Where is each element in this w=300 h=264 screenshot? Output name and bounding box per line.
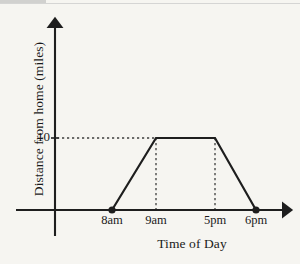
x-tick-label-5pm: 5pm [195,213,235,228]
data-series-line [112,138,256,210]
x-axis-title: Time of Day [130,236,254,252]
axes-group [16,24,286,236]
x-tick-label-8am: 8am [92,213,132,228]
y-axis-title: Distance from home (miles) [31,24,47,214]
chart-figure: Distance from home (miles) Time of Day 1… [0,0,300,264]
x-tick-label-9am: 9am [136,213,176,228]
x-tick-label-6pm: 6pm [236,213,276,228]
y-tick-label-10: 10 [28,129,50,145]
guide-lines-group [57,138,215,209]
